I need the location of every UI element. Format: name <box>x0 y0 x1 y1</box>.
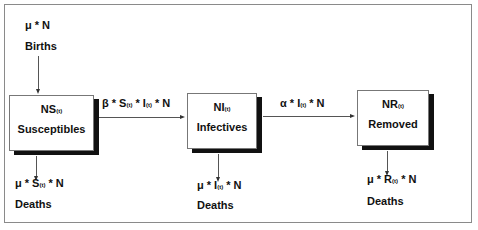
compartment-infectives: NI(t) Infectives <box>187 93 257 149</box>
removed-label: Removed <box>358 118 428 130</box>
births-arrow <box>38 56 39 90</box>
deaths-r-rate: μ * R(t) * N <box>367 173 416 188</box>
infection-rate: β * S(t) * I(t) * N <box>102 97 170 112</box>
deaths-r-arrow <box>387 151 388 172</box>
infectives-symbol: NI <box>214 101 225 113</box>
births-rate: μ * N <box>25 19 50 32</box>
susceptibles-symbol: NS <box>41 103 56 115</box>
deaths-s-label: Deaths <box>15 198 52 211</box>
deaths-s-rate: μ * S(t) * N <box>15 177 64 192</box>
infectives-label: Infectives <box>188 121 256 133</box>
infection-arrow <box>99 117 181 118</box>
removal-arrowhead-icon <box>350 114 355 118</box>
removal-rate: α * I(t) * N <box>280 97 325 112</box>
susceptibles-label: Susceptibles <box>10 123 93 135</box>
removal-arrow <box>263 116 351 117</box>
removed-symbol: NR <box>382 98 398 110</box>
compartment-susceptibles: NS(t) Susceptibles <box>9 95 94 151</box>
births-arrowhead-icon <box>36 89 40 94</box>
compartment-removed: NR(t) Removed <box>357 90 429 146</box>
births-label: Births <box>25 40 57 53</box>
deaths-r-label: Deaths <box>367 195 404 208</box>
deaths-i-arrow <box>218 154 219 178</box>
deaths-i-rate: μ * I(t) * N <box>197 179 242 194</box>
deaths-i-label: Deaths <box>197 199 234 212</box>
deaths-s-arrow <box>36 156 37 178</box>
infection-arrowhead-icon <box>180 115 185 119</box>
